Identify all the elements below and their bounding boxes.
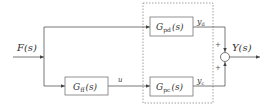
yc-label: yc	[196, 76, 205, 86]
block-gpd: Gpd(s)	[150, 17, 193, 36]
u-label: u	[118, 76, 123, 84]
block-gpc: Gpc(s)	[150, 77, 193, 96]
input-label: F(s)	[16, 42, 37, 53]
block-gff: Gff(s)	[65, 77, 108, 95]
svg-text:Gff(s): Gff(s)	[73, 82, 98, 93]
block-diagram: Gff(s) Gpd(s) Gpc(s) F(s) u yd yc + + Y(…	[0, 0, 273, 111]
sign-top: +	[215, 41, 221, 49]
output-label: Y(s)	[232, 42, 252, 53]
yd-label: yd	[196, 17, 206, 27]
sign-bottom: +	[215, 64, 221, 72]
summing-junction	[221, 53, 230, 62]
